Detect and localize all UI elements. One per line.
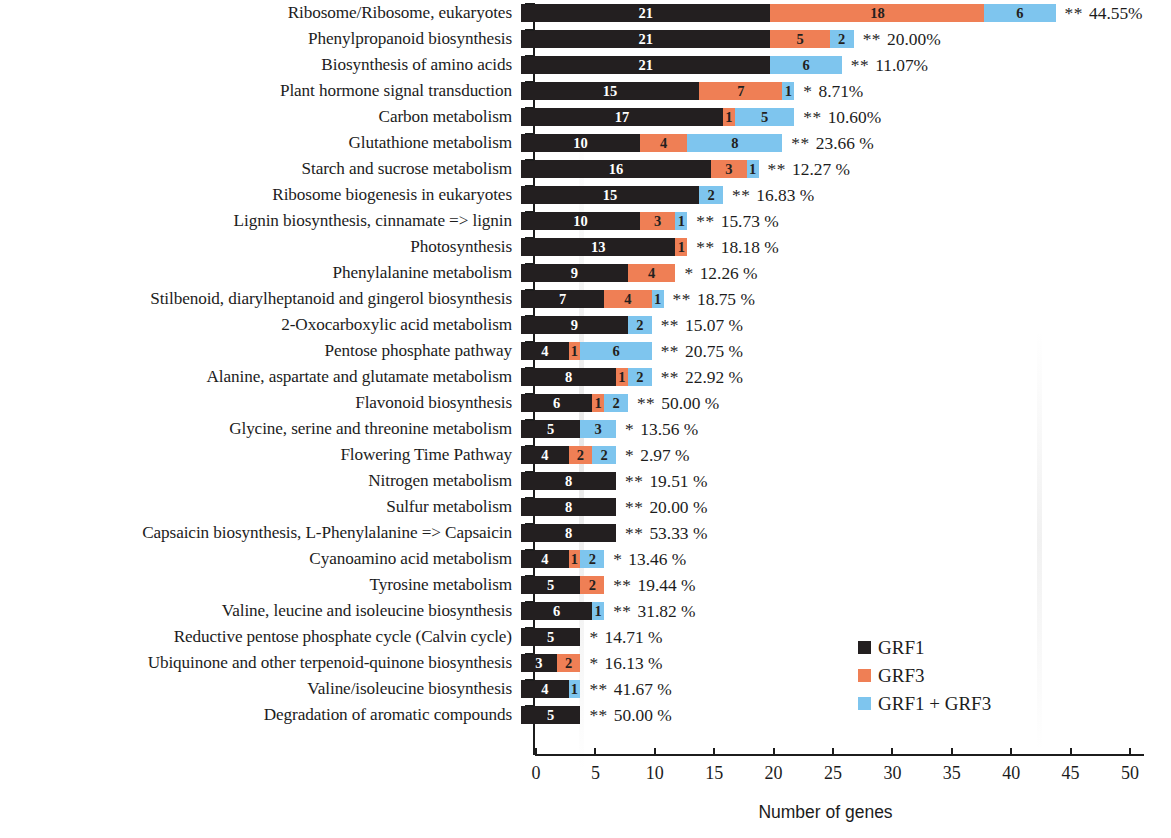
bar-segment-value: 1 <box>571 682 578 697</box>
stacked-bar[interactable]: 94 <box>521 264 675 282</box>
bar-segment-both[interactable]: 6 <box>580 342 651 360</box>
bar-segment-grf3[interactable]: 4 <box>640 134 688 152</box>
stacked-bar[interactable]: 1631 <box>521 160 759 178</box>
stacked-bar[interactable]: 416 <box>521 342 652 360</box>
stacked-bar[interactable]: 8 <box>521 498 616 516</box>
bar-segment-both[interactable]: 6 <box>984 4 1055 22</box>
x-axis-tick-label: 25 <box>824 763 842 784</box>
stacked-bar[interactable]: 1571 <box>521 82 794 100</box>
bar-segment-grf1[interactable]: 13 <box>521 238 675 256</box>
bar-segment-both[interactable]: 2 <box>699 186 723 204</box>
bar-segment-grf1[interactable]: 6 <box>521 394 592 412</box>
bar-segment-grf1[interactable]: 10 <box>521 212 640 230</box>
stacked-bar[interactable]: 131 <box>521 238 687 256</box>
bar-segment-both[interactable]: 1 <box>782 82 794 100</box>
bar-segment-grf3[interactable]: 1 <box>616 368 628 386</box>
bar-segment-grf3[interactable]: 2 <box>557 654 581 672</box>
stacked-bar[interactable]: 21186 <box>521 4 1056 22</box>
bar-segment-grf1[interactable]: 5 <box>521 576 580 594</box>
bar-segment-grf1[interactable]: 5 <box>521 628 580 646</box>
bar-segment-grf1[interactable]: 17 <box>521 108 723 126</box>
significance-annotation: **10.60% <box>803 107 881 127</box>
stacked-bar[interactable]: 5 <box>521 628 580 646</box>
bar-segment-grf1[interactable]: 4 <box>521 446 569 464</box>
bar-segment-grf1[interactable]: 9 <box>521 264 628 282</box>
bar-segment-both[interactable]: 2 <box>580 550 604 568</box>
bar-segment-grf1[interactable]: 21 <box>521 30 770 48</box>
bar-segment-both[interactable]: 2 <box>830 30 854 48</box>
bar-segment-grf1[interactable]: 10 <box>521 134 640 152</box>
bar-segment-grf3[interactable]: 1 <box>592 394 604 412</box>
stacked-bar[interactable]: 2152 <box>521 30 854 48</box>
stacked-bar[interactable]: 53 <box>521 420 616 438</box>
stacked-bar[interactable]: 92 <box>521 316 652 334</box>
bar-segment-both[interactable]: 5 <box>735 108 794 126</box>
bar-segment-both[interactable]: 1 <box>592 602 604 620</box>
bar-segment-grf1[interactable]: 8 <box>521 524 616 542</box>
stacked-bar[interactable]: 5 <box>521 706 580 724</box>
stacked-bar[interactable]: 1715 <box>521 108 794 126</box>
legend-item-grf1[interactable]: GRF1 <box>858 638 991 657</box>
bar-segment-grf1[interactable]: 4 <box>521 680 569 698</box>
bar-segment-grf1[interactable]: 15 <box>521 186 699 204</box>
stacked-bar[interactable]: 1048 <box>521 134 782 152</box>
bar-segment-both[interactable]: 1 <box>569 680 581 698</box>
bar-segment-grf3[interactable]: 4 <box>604 290 652 308</box>
bar-segment-grf1[interactable]: 3 <box>521 654 557 672</box>
stacked-bar[interactable]: 216 <box>521 56 842 74</box>
bar-segment-grf3[interactable]: 1 <box>569 550 581 568</box>
bar-segment-both[interactable]: 1 <box>652 290 664 308</box>
bar-segment-both[interactable]: 6 <box>770 56 841 74</box>
stacked-bar[interactable]: 41 <box>521 680 580 698</box>
bar-segment-grf3[interactable]: 7 <box>699 82 782 100</box>
bar-segment-both[interactable]: 2 <box>628 316 652 334</box>
bar-segment-grf3[interactable]: 4 <box>628 264 676 282</box>
bar-segment-grf3[interactable]: 1 <box>723 108 735 126</box>
bar-segment-grf1[interactable]: 5 <box>521 706 580 724</box>
bar-segment-both[interactable]: 2 <box>604 394 628 412</box>
bar-segment-grf1[interactable]: 21 <box>521 56 770 74</box>
stacked-bar[interactable]: 152 <box>521 186 723 204</box>
stacked-bar[interactable]: 8 <box>521 472 616 490</box>
stacked-bar[interactable]: 1031 <box>521 212 687 230</box>
bar-segment-both[interactable]: 8 <box>687 134 782 152</box>
stacked-bar[interactable]: 52 <box>521 576 604 594</box>
legend-item-grf1-grf3[interactable]: GRF1 + GRF3 <box>858 694 991 713</box>
stacked-bar[interactable]: 812 <box>521 368 652 386</box>
bar-segment-grf3[interactable]: 2 <box>580 576 604 594</box>
bar-segment-grf3[interactable]: 2 <box>569 446 593 464</box>
bar-segment-grf3[interactable]: 3 <box>711 160 747 178</box>
legend-item-grf3[interactable]: GRF3 <box>858 666 991 685</box>
stacked-bar[interactable]: 612 <box>521 394 628 412</box>
bar-segment-grf1[interactable]: 15 <box>521 82 699 100</box>
bar-segment-grf1[interactable]: 9 <box>521 316 628 334</box>
bar-segment-grf3[interactable]: 5 <box>770 30 829 48</box>
bar-segment-grf1[interactable]: 4 <box>521 342 569 360</box>
y-axis-tick <box>525 523 534 525</box>
stacked-bar[interactable]: 8 <box>521 524 616 542</box>
bar-segment-grf1[interactable]: 7 <box>521 290 604 308</box>
bar-segment-grf3[interactable]: 1 <box>675 238 687 256</box>
bar-segment-grf1[interactable]: 16 <box>521 160 711 178</box>
stacked-bar[interactable]: 741 <box>521 290 664 308</box>
bar-segment-both[interactable]: 1 <box>675 212 687 230</box>
bar-segment-both[interactable]: 3 <box>580 420 616 438</box>
stacked-bar[interactable]: 61 <box>521 602 604 620</box>
bar-segment-grf1[interactable]: 6 <box>521 602 592 620</box>
bar-segment-grf3[interactable]: 3 <box>640 212 676 230</box>
bar-segment-grf3[interactable]: 18 <box>770 4 984 22</box>
bar-segment-both[interactable]: 1 <box>747 160 759 178</box>
stacked-bar[interactable]: 422 <box>521 446 616 464</box>
bar-segment-both[interactable]: 2 <box>592 446 616 464</box>
bar-segment-grf1[interactable]: 8 <box>521 498 616 516</box>
stacked-bar[interactable]: 412 <box>521 550 604 568</box>
bar-segment-grf1[interactable]: 5 <box>521 420 580 438</box>
bar-segment-grf1[interactable]: 8 <box>521 368 616 386</box>
stacked-bar[interactable]: 32 <box>521 654 580 672</box>
bar-segment-both[interactable]: 2 <box>628 368 652 386</box>
bar-segment-value: 2 <box>707 188 714 203</box>
bar-segment-grf1[interactable]: 8 <box>521 472 616 490</box>
bar-segment-grf3[interactable]: 1 <box>569 342 581 360</box>
bar-segment-grf1[interactable]: 4 <box>521 550 569 568</box>
bar-segment-grf1[interactable]: 21 <box>521 4 770 22</box>
